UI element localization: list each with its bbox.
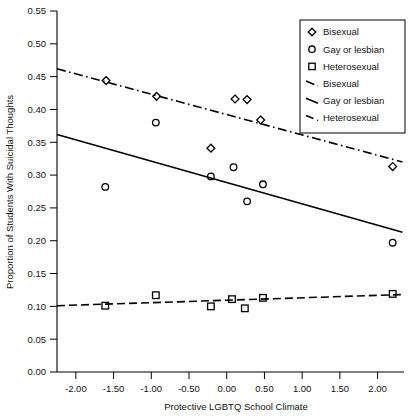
x-tick-label: 0.00 <box>217 383 236 394</box>
chart-figure: 0.000.050.100.150.200.250.300.350.400.45… <box>0 0 413 418</box>
legend-label: Bisexual <box>323 78 359 89</box>
y-tick-label: 0.20 <box>28 235 47 246</box>
legend-label: Bisexual <box>323 26 359 37</box>
x-tick-label: -1.50 <box>103 383 125 394</box>
x-tick-label: 1.00 <box>293 383 312 394</box>
y-tick-label: 0.55 <box>28 5 47 16</box>
y-tick-label: 0.50 <box>28 38 47 49</box>
y-axis-title: Proportion of Students With Suicidal Tho… <box>4 95 15 289</box>
y-tick-label: 0.00 <box>28 366 47 377</box>
x-tick-label: -0.50 <box>178 383 200 394</box>
y-tick-label: 0.25 <box>28 202 47 213</box>
legend: BisexualGay or lesbianHeterosexualBisexu… <box>300 20 405 133</box>
scatter-plot-canvas: 0.000.050.100.150.200.250.300.350.400.45… <box>0 0 413 418</box>
x-tick-label: 0.50 <box>255 383 274 394</box>
y-tick-label: 0.05 <box>28 334 47 345</box>
y-tick-label: 0.35 <box>28 137 47 148</box>
y-tick-label: 0.15 <box>28 268 47 279</box>
x-tick-label: 2.00 <box>368 383 387 394</box>
legend-label: Gay or lesbian <box>323 44 384 55</box>
y-tick-label: 0.10 <box>28 301 47 312</box>
legend-label: Heterosexual <box>323 112 379 123</box>
x-tick-label: 1.50 <box>331 383 350 394</box>
y-tick-label: 0.40 <box>28 104 47 115</box>
x-axis-title: Protective LGBTQ School Climate <box>164 401 308 412</box>
x-tick-label: -1.00 <box>140 383 162 394</box>
x-tick-label: -2.00 <box>65 383 87 394</box>
legend-label: Heterosexual <box>323 61 379 72</box>
y-tick-label: 0.30 <box>28 169 47 180</box>
y-tick-label: 0.45 <box>28 71 47 82</box>
legend-label: Gay or lesbian <box>323 95 384 106</box>
